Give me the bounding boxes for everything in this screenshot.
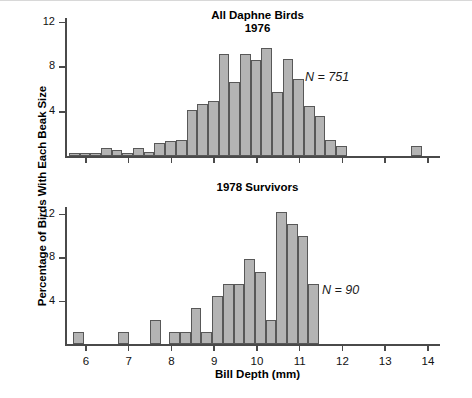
annotation-n-top: N = 751 — [305, 70, 349, 84]
histogram-bar — [255, 272, 266, 344]
x-tick-label-14: 14 — [418, 355, 438, 367]
histogram-bar — [336, 146, 347, 156]
y-tick-label-bottom-12: 12 — [33, 207, 55, 219]
y-tick-label-bottom-4: 4 — [33, 294, 55, 306]
histogram-bar — [325, 140, 336, 156]
x-tick-label-6: 6 — [76, 355, 96, 367]
x-tick-bottom-13 — [384, 345, 386, 351]
y-tick-label-top-12: 12 — [33, 15, 55, 27]
histogram-bar — [112, 150, 123, 156]
histogram-bar — [150, 320, 161, 344]
x-tick-bottom-7 — [128, 345, 130, 351]
x-tick-top-10 — [256, 157, 258, 163]
histogram-bar — [212, 296, 223, 344]
histogram-bar — [223, 284, 234, 344]
y-tick-label-top-4: 4 — [33, 104, 55, 116]
histogram-bar — [144, 152, 155, 156]
x-tick-top-11 — [299, 157, 301, 163]
histogram-bar — [234, 284, 245, 344]
y-tick-label-top-8: 8 — [33, 59, 55, 71]
y-axis-line-bottom — [65, 207, 67, 345]
x-tick-top-12 — [342, 157, 344, 163]
histogram-bar — [201, 332, 212, 344]
histogram-bar — [80, 153, 91, 156]
histogram-bar — [133, 148, 144, 156]
histogram-bar — [191, 308, 202, 344]
histogram-bar — [276, 212, 287, 344]
x-tick-bottom-9 — [213, 345, 215, 351]
x-tick-label-11: 11 — [290, 355, 310, 367]
x-tick-label-10: 10 — [247, 355, 267, 367]
histogram-bar — [165, 141, 176, 156]
histogram-bar — [308, 284, 319, 344]
y-tick-bottom-4 — [59, 301, 65, 303]
x-tick-top-6 — [85, 157, 87, 163]
x-tick-bottom-6 — [85, 345, 87, 351]
histogram-bar — [283, 59, 294, 156]
histogram-bar — [287, 224, 298, 344]
top-rule — [0, 0, 472, 1]
annotation-n-bottom: N = 90 — [322, 283, 359, 297]
y-tick-bottom-12 — [59, 214, 65, 216]
histogram-bar — [315, 116, 326, 156]
x-tick-label-13: 13 — [375, 355, 395, 367]
histogram-bar — [293, 79, 304, 156]
histogram-bar — [73, 332, 84, 344]
histogram-bar — [118, 332, 129, 344]
histogram-bar — [272, 92, 283, 156]
y-tick-label-bottom-8: 8 — [33, 250, 55, 262]
y-tick-top-12 — [59, 22, 65, 24]
histogram-bar — [187, 110, 198, 156]
panel-title-bottom: 1978 Survivors — [85, 181, 430, 194]
histogram-bar — [154, 143, 165, 156]
x-tick-bottom-14 — [427, 345, 429, 351]
x-axis-label: Bill Depth (mm) — [85, 368, 430, 380]
histogram-bar — [69, 153, 80, 156]
histogram-bar — [176, 140, 187, 156]
histogram-bar — [90, 153, 101, 156]
x-tick-top-13 — [384, 157, 386, 163]
histogram-bar — [208, 101, 219, 156]
figure-root: Percentage of Birds With Each Beak Size … — [0, 0, 472, 398]
panel-title-top-line2: 1976 — [85, 22, 430, 35]
histogram-bar — [197, 104, 208, 156]
x-tick-bottom-11 — [299, 345, 301, 351]
y-tick-top-8 — [59, 66, 65, 68]
histogram-bar — [122, 153, 133, 156]
y-tick-bottom-8 — [59, 257, 65, 259]
histogram-bar — [244, 259, 255, 344]
x-tick-label-7: 7 — [119, 355, 139, 367]
histogram-bar — [229, 82, 240, 156]
panel-title-bottom-line1: 1978 Survivors — [217, 181, 299, 193]
histogram-bar — [219, 54, 230, 156]
histogram-bar — [240, 54, 251, 156]
histogram-bar — [101, 148, 112, 156]
x-tick-top-14 — [427, 157, 429, 163]
x-tick-top-8 — [171, 157, 173, 163]
x-tick-label-9: 9 — [204, 355, 224, 367]
panel-title-top-line1: All Daphne Birds — [211, 9, 304, 21]
x-tick-top-7 — [128, 157, 130, 163]
panel-title-top: All Daphne Birds 1976 — [85, 9, 430, 35]
histogram-bar — [180, 332, 191, 344]
x-tick-label-12: 12 — [333, 355, 353, 367]
x-tick-bottom-10 — [256, 345, 258, 351]
histogram-bar — [251, 60, 262, 156]
y-axis-line-top — [65, 18, 67, 157]
y-tick-top-4 — [59, 111, 65, 113]
histogram-bar — [261, 48, 272, 156]
histogram-bar — [298, 236, 309, 345]
histogram-bar — [266, 320, 277, 344]
x-tick-bottom-8 — [171, 345, 173, 351]
histogram-bar — [304, 106, 315, 156]
x-tick-top-9 — [213, 157, 215, 163]
x-tick-bottom-12 — [342, 345, 344, 351]
histogram-bar — [169, 332, 180, 344]
x-tick-label-8: 8 — [162, 355, 182, 367]
histogram-bar — [411, 146, 422, 156]
